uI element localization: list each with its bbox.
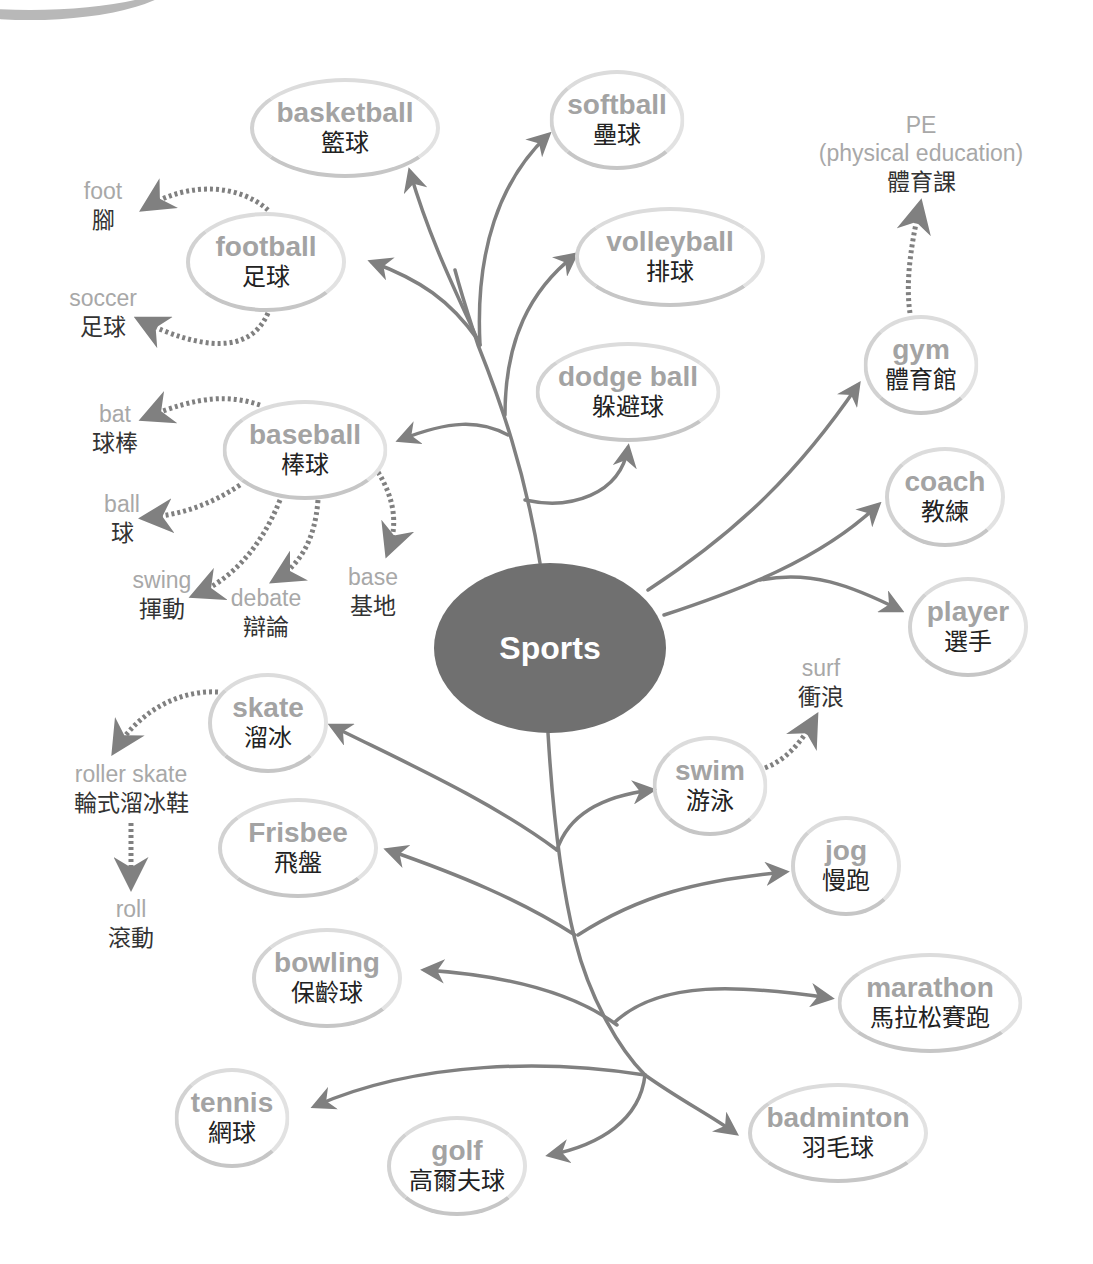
dotted-gym-pe bbox=[908, 205, 920, 313]
leaf-english-label: swing bbox=[133, 566, 192, 594]
node-chinese-label: 籃球 bbox=[321, 128, 369, 158]
center-node-sports: Sports bbox=[434, 563, 666, 733]
node-tennis: tennis網球 bbox=[175, 1068, 290, 1168]
node-dodgeball: dodge ball躲避球 bbox=[536, 342, 721, 442]
node-bowling: bowling保齡球 bbox=[252, 928, 402, 1028]
dotted-football-soccer bbox=[140, 313, 268, 344]
node-baseball: baseball棒球 bbox=[223, 400, 388, 500]
node-english-label: baseball bbox=[249, 420, 361, 450]
leaf-english-label: bat bbox=[92, 400, 138, 428]
node-english-label: skate bbox=[232, 693, 304, 723]
leaf-chinese-label: 球棒 bbox=[92, 428, 138, 458]
leaf-chinese-label: 輪式溜冰鞋 bbox=[74, 788, 189, 818]
node-chinese-label: 保齡球 bbox=[291, 978, 363, 1008]
leaf-english-label: foot bbox=[84, 177, 122, 205]
node-softball: softball壘球 bbox=[550, 70, 685, 170]
node-coach: coach教練 bbox=[885, 447, 1005, 547]
dotted-football-foot bbox=[145, 189, 268, 210]
center-label: Sports bbox=[499, 630, 600, 667]
dotted-baseball-swing bbox=[195, 500, 280, 595]
leaf-english-label: soccer bbox=[69, 284, 137, 312]
branch-dodgeball bbox=[525, 448, 628, 503]
node-chinese-label: 棒球 bbox=[281, 450, 329, 480]
node-english-label: player bbox=[927, 597, 1010, 627]
node-english-label: dodge ball bbox=[558, 362, 698, 392]
node-chinese-label: 高爾夫球 bbox=[409, 1166, 505, 1196]
node-player: player選手 bbox=[908, 577, 1028, 677]
node-chinese-label: 羽毛球 bbox=[802, 1133, 874, 1163]
node-english-label: tennis bbox=[191, 1088, 273, 1118]
leaf-english-label: ball bbox=[104, 490, 140, 518]
leaf-foot: foot腳 bbox=[84, 177, 122, 235]
leaf-bat: bat球棒 bbox=[92, 400, 138, 458]
node-chinese-label: 游泳 bbox=[686, 786, 734, 816]
node-chinese-label: 躲避球 bbox=[592, 392, 664, 422]
leaf-chinese-label: 衝浪 bbox=[798, 682, 844, 712]
node-golf: golf高爾夫球 bbox=[387, 1116, 527, 1216]
node-english-label: golf bbox=[431, 1136, 482, 1166]
leaf-english-label: roll bbox=[108, 895, 154, 923]
node-chinese-label: 體育館 bbox=[885, 365, 957, 395]
leaf-pe: PE(physical education)體育課 bbox=[819, 111, 1024, 197]
node-chinese-label: 飛盤 bbox=[274, 848, 322, 878]
node-english-label: badminton bbox=[766, 1103, 909, 1133]
leaf-soccer: soccer足球 bbox=[69, 284, 137, 342]
leaf-chinese-label: 球 bbox=[104, 518, 140, 548]
dotted-baseball-debate bbox=[275, 500, 318, 580]
node-english-label: gym bbox=[892, 335, 950, 365]
branch-coach bbox=[664, 505, 878, 615]
leaf-english-label: base bbox=[348, 563, 398, 591]
node-chinese-label: 足球 bbox=[242, 262, 290, 292]
node-english-label: coach bbox=[905, 467, 986, 497]
leaf-chinese-label: 滾動 bbox=[108, 923, 154, 953]
node-skate: skate溜冰 bbox=[208, 673, 328, 773]
node-chinese-label: 網球 bbox=[208, 1118, 256, 1148]
node-english-label: bowling bbox=[274, 948, 380, 978]
node-frisbee: Frisbee飛盤 bbox=[218, 798, 378, 898]
leaf-base: base基地 bbox=[348, 563, 398, 621]
leaf-chinese-label: 揮動 bbox=[133, 594, 192, 624]
node-football: football足球 bbox=[186, 212, 346, 312]
node-chinese-label: 排球 bbox=[646, 257, 694, 287]
branch-baseball bbox=[400, 424, 508, 440]
node-english-label: football bbox=[215, 232, 316, 262]
branch-swim bbox=[557, 790, 652, 850]
branch-player bbox=[760, 577, 900, 610]
leaf-chinese-label: 腳 bbox=[84, 205, 122, 235]
node-english-label: softball bbox=[567, 90, 667, 120]
node-english-label: swim bbox=[675, 756, 745, 786]
node-chinese-label: 馬拉松賽跑 bbox=[870, 1003, 990, 1033]
branch-frisbee bbox=[388, 850, 575, 935]
leaf-english-label: roller skate bbox=[74, 760, 189, 788]
leaf-chinese-label: 體育課 bbox=[819, 167, 1024, 197]
node-badminton: badminton羽毛球 bbox=[748, 1083, 928, 1183]
node-english-label: jog bbox=[825, 836, 867, 866]
node-english-label: volleyball bbox=[606, 227, 734, 257]
leaf-english-label: PE bbox=[819, 111, 1024, 139]
leaf-debate: debate辯論 bbox=[231, 584, 301, 642]
leaf-roll: roll滾動 bbox=[108, 895, 154, 953]
leaf-chinese-label: 辯論 bbox=[231, 612, 301, 642]
node-english-label: marathon bbox=[866, 973, 994, 1003]
branch-tennis bbox=[315, 1066, 645, 1106]
leaf-ball: ball球 bbox=[104, 490, 140, 548]
branch-golf bbox=[550, 1075, 645, 1155]
node-basketball: basketball籃球 bbox=[250, 78, 440, 178]
node-jog: jog慢跑 bbox=[791, 816, 901, 916]
dotted-swim-surf bbox=[765, 718, 815, 768]
node-chinese-label: 選手 bbox=[944, 627, 992, 657]
node-chinese-label: 溜冰 bbox=[244, 723, 292, 753]
branch-softball bbox=[479, 135, 548, 345]
node-chinese-label: 教練 bbox=[921, 497, 969, 527]
node-volleyball: volleyball排球 bbox=[575, 207, 765, 307]
branch-marathon bbox=[615, 989, 830, 1022]
branch-football bbox=[372, 262, 478, 340]
leaf-chinese-label: 足球 bbox=[69, 312, 137, 342]
branch-jog bbox=[578, 872, 785, 935]
leaf-english-label: debate bbox=[231, 584, 301, 612]
leaf-chinese-label: 基地 bbox=[348, 591, 398, 621]
leaf-english-label: surf bbox=[798, 654, 844, 682]
leaf-english-sublabel: (physical education) bbox=[819, 139, 1024, 167]
node-swim: swim游泳 bbox=[653, 736, 768, 836]
node-marathon: marathon馬拉松賽跑 bbox=[838, 953, 1023, 1053]
